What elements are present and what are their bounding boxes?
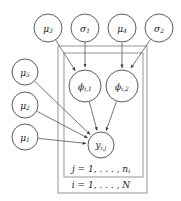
edge-phi2-to-y xyxy=(106,102,116,131)
edge-phi1-to-y xyxy=(89,102,97,130)
node-sigma1[interactable]: σ1 xyxy=(71,14,99,42)
node-phi-i-1[interactable]: ϕi,1 xyxy=(69,70,101,102)
node-group: μ3 σ1 μ4 σ2 xyxy=(12,14,173,158)
pgm-canvas: μ3 σ1 μ4 σ2 xyxy=(0,0,181,201)
pgm-figure: μ3 σ1 μ4 σ2 xyxy=(0,0,181,201)
edge-mu3-to-phi1 xyxy=(56,40,75,70)
plate-inner xyxy=(64,53,143,177)
plate-label-group: j = 1, . . . , ni i = 1, . . . , N xyxy=(70,164,131,190)
node-sigma2[interactable]: σ2 xyxy=(145,14,173,42)
node-mu5[interactable]: μ5 xyxy=(12,59,38,85)
node-mu4[interactable]: μ4 xyxy=(108,14,136,42)
edge-sigma2-to-phi2 xyxy=(131,40,151,69)
plate-outer-label: i = 1, . . . , N xyxy=(72,180,131,190)
node-mu2[interactable]: μ2 xyxy=(12,92,38,118)
plate-inner-label: j = 1, . . . , ni xyxy=(70,164,130,174)
node-mu3[interactable]: μ3 xyxy=(34,14,62,42)
node-y-i-j[interactable]: yi,j xyxy=(88,132,114,158)
node-mu1[interactable]: μ1 xyxy=(12,124,38,150)
node-phi-i-2[interactable]: ϕi,2 xyxy=(106,70,138,102)
edge-mu1-to-y xyxy=(39,138,86,143)
